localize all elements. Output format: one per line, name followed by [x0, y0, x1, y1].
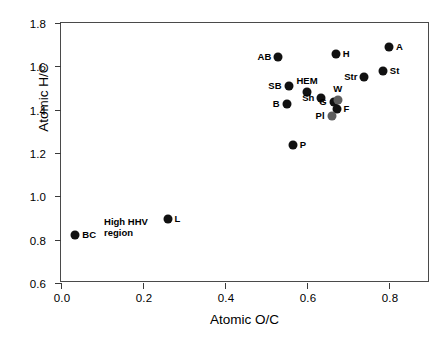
data-point-p[interactable]	[288, 141, 297, 150]
x-tick-label: 0.0	[54, 292, 70, 304]
data-point-label-bc: BC	[82, 231, 96, 241]
data-point-label-a: A	[396, 42, 403, 52]
scatter-plot-figure: 0.60.81.01.21.41.61.8 0.00.20.40.60.8 BC…	[0, 0, 447, 342]
y-tick: 1.4	[55, 110, 61, 111]
y-axis-title: Atomic H/C	[36, 8, 51, 188]
x-axis-title: Atomic O/C	[60, 312, 429, 327]
data-point-label-l: L	[175, 214, 181, 224]
data-point-label-h: H	[343, 50, 350, 60]
data-point-a[interactable]	[385, 42, 394, 51]
x-tick-label: 0.6	[300, 292, 316, 304]
y-tick-label: 0.6	[30, 278, 46, 290]
x-tick: 0.6	[307, 283, 308, 289]
x-tick-label: 0.8	[382, 292, 398, 304]
data-point-w[interactable]	[333, 95, 342, 104]
data-point-bc[interactable]	[71, 231, 80, 240]
data-point-label-f: F	[344, 104, 350, 114]
data-point-label-ab: AB	[258, 52, 272, 62]
data-point-str[interactable]	[360, 73, 369, 82]
data-point-l[interactable]	[163, 215, 172, 224]
y-tick: 1.0	[55, 196, 61, 197]
data-point-label-w: W	[333, 83, 342, 93]
data-point-b[interactable]	[282, 100, 291, 109]
data-point-label-p: P	[300, 141, 306, 151]
y-tick: 1.6	[55, 66, 61, 67]
y-tick-label: 0.8	[30, 235, 46, 247]
x-tick: 0.0	[61, 283, 62, 289]
data-point-label-pl: Pl	[316, 111, 325, 121]
data-point-sb[interactable]	[284, 81, 293, 90]
data-point-ab[interactable]	[274, 52, 283, 61]
data-point-h[interactable]	[331, 50, 340, 59]
data-point-label-st: St	[390, 66, 400, 76]
y-tick: 1.2	[55, 153, 61, 154]
data-point-st[interactable]	[378, 66, 387, 75]
x-tick: 0.4	[225, 283, 226, 289]
data-point-label-g: G	[319, 97, 326, 107]
data-point-pl[interactable]	[327, 112, 336, 121]
x-tick-label: 0.2	[136, 292, 152, 304]
plot-area: 0.60.81.01.21.41.61.8 0.00.20.40.60.8 BC…	[60, 22, 429, 282]
y-tick: 0.8	[55, 240, 61, 241]
x-tick: 0.8	[389, 283, 390, 289]
data-point-label-hem: HEM	[296, 76, 317, 86]
data-point-label-b: B	[273, 100, 280, 110]
x-tick: 0.2	[143, 283, 144, 289]
y-tick-label: 1.0	[30, 191, 46, 203]
x-tick-label: 0.4	[218, 292, 234, 304]
annotation-high-hhv-region: High HHV region	[104, 217, 148, 239]
data-point-label-str: Str	[344, 72, 357, 82]
data-point-label-sh: Sh	[302, 93, 314, 103]
y-tick: 1.8	[55, 23, 61, 24]
data-point-label-sb: SB	[268, 81, 281, 91]
